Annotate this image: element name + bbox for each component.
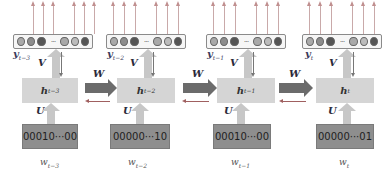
output-arrow	[124, 4, 125, 34]
output-unit	[253, 37, 261, 46]
output-unit	[164, 37, 172, 46]
hidden-state: ht−2	[117, 78, 175, 103]
output-unit	[71, 37, 79, 46]
output-arrow	[235, 4, 236, 34]
output-unit	[360, 37, 368, 46]
output-layer: ···	[13, 34, 93, 49]
weight-v-label: V	[38, 57, 46, 68]
output-arrow	[320, 4, 321, 34]
output-unit	[264, 37, 272, 46]
feedback-down-arrow	[353, 52, 354, 74]
one-hot-input: 00000···10	[110, 124, 170, 149]
timestep-t-3: ··· yt−3 V ht−3 U 00010···00 wt−3	[0, 0, 96, 172]
output-label: yt−2	[107, 48, 124, 61]
output-arrow	[352, 4, 353, 34]
u-up-arrow	[135, 103, 145, 124]
output-unit	[316, 37, 324, 46]
output-unit	[306, 37, 314, 46]
output-layer: ···	[106, 34, 186, 49]
weight-u-label: U	[328, 105, 337, 116]
output-arrow	[178, 4, 179, 34]
feedback-down-arrow	[253, 52, 254, 74]
output-unit	[110, 37, 118, 46]
weight-v-label: V	[230, 57, 238, 68]
output-unit	[174, 37, 182, 46]
hidden-state: ht−3	[22, 78, 78, 103]
output-unit	[220, 37, 228, 46]
hidden-state: ht	[316, 78, 374, 103]
output-unit	[17, 37, 25, 46]
output-arrow	[113, 4, 114, 34]
output-unit	[274, 37, 282, 46]
weight-v-label: V	[329, 57, 337, 68]
one-hot-input: 00010···00	[213, 124, 271, 149]
output-unit	[130, 37, 138, 46]
output-unit	[349, 37, 357, 46]
output-unit	[153, 37, 161, 46]
output-unit	[37, 37, 45, 46]
output-unit	[120, 37, 128, 46]
one-hot-input: 00000···01	[316, 124, 374, 149]
output-arrow	[363, 4, 364, 34]
timestep-t: ··· yt V ht U 00000···01 wt	[292, 0, 388, 172]
output-arrow	[33, 4, 34, 34]
output-arrow	[167, 4, 168, 34]
u-up-arrow	[46, 103, 56, 124]
output-layer: ···	[302, 34, 382, 49]
output-layer: ···	[206, 34, 286, 49]
output-unit	[210, 37, 218, 46]
feedback-down-arrow	[61, 52, 62, 74]
ellipsis: ···	[141, 37, 152, 46]
output-label: yt−1	[207, 48, 224, 61]
weight-v-label: V	[130, 57, 138, 68]
one-hot-input: 00010···00	[22, 124, 78, 149]
ellipsis: ···	[241, 37, 252, 46]
ellipsis: ···	[337, 37, 348, 46]
output-arrow	[224, 4, 225, 34]
output-arrow	[374, 4, 375, 34]
output-arrow	[53, 4, 54, 34]
ellipsis: ···	[48, 37, 59, 46]
output-arrow	[74, 4, 75, 34]
input-word-label: wt−3	[40, 157, 59, 169]
output-unit	[326, 37, 334, 46]
u-up-arrow	[236, 103, 246, 124]
output-arrow	[213, 4, 214, 34]
output-arrow	[156, 4, 157, 34]
output-arrow	[331, 4, 332, 34]
hidden-state: ht−1	[217, 78, 275, 103]
output-arrow	[94, 4, 95, 34]
output-label: yt−3	[13, 48, 30, 61]
input-word-label: wt−1	[231, 157, 250, 169]
feedback-down-arrow	[153, 52, 154, 74]
output-arrow	[84, 4, 85, 34]
output-unit	[230, 37, 238, 46]
output-arrow	[278, 4, 279, 34]
output-unit	[60, 37, 68, 46]
output-label: yt	[305, 48, 313, 61]
timestep-t-2: ··· yt−2 V ht−2 U 00000···10 wt−2	[97, 0, 193, 172]
output-arrow	[309, 4, 310, 34]
output-arrow	[135, 4, 136, 34]
u-up-arrow	[342, 103, 352, 124]
output-unit	[81, 37, 89, 46]
output-arrow	[43, 4, 44, 34]
input-word-label: wt−2	[128, 157, 147, 169]
output-unit	[27, 37, 35, 46]
output-unit	[370, 37, 378, 46]
input-word-label: wt	[339, 157, 349, 169]
output-arrow	[256, 4, 257, 34]
output-arrow	[267, 4, 268, 34]
